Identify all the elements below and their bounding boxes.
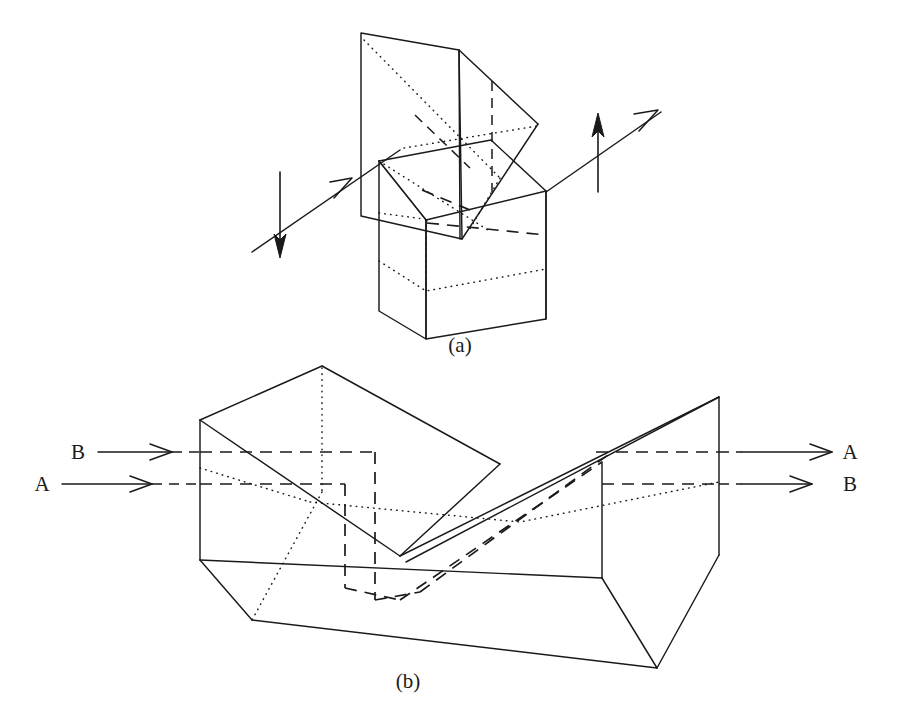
panel-a-group: (a) bbox=[252, 33, 661, 357]
roof-left-panel-top-edge bbox=[200, 366, 322, 420]
panel-a-label: (a) bbox=[448, 333, 471, 357]
panel-b-roof-body bbox=[200, 366, 719, 578]
bottom-slab-right-inner-bevel bbox=[602, 578, 657, 668]
inner-roof-rising-edge bbox=[400, 397, 719, 556]
ray-label-b-out: B bbox=[843, 472, 857, 496]
panel-b-outgoing-rays: A B bbox=[719, 440, 858, 496]
roof-right-panel-top-edge bbox=[322, 366, 500, 464]
output-ray-line bbox=[546, 112, 661, 192]
ray-label-a-in: A bbox=[34, 472, 50, 496]
hidden-left-interior-edge bbox=[200, 468, 310, 502]
upper-prism-hidden-diagonal bbox=[364, 40, 500, 178]
lower-body-left-face bbox=[379, 161, 426, 339]
lower-body-hidden-face-line bbox=[422, 190, 470, 210]
panel-a-upper-prism bbox=[361, 33, 538, 239]
bottom-slab-top-edge bbox=[200, 560, 602, 578]
hidden-left-diagonal bbox=[252, 492, 322, 620]
inner-roof-rising-edge-second bbox=[406, 397, 719, 562]
panel-b-bottom-slab bbox=[200, 555, 719, 668]
figure-canvas: (a) bbox=[0, 0, 906, 719]
upper-prism-roof-lower-edge bbox=[462, 124, 538, 239]
panel-b-hidden-dotted bbox=[200, 368, 719, 620]
ray-label-a-out: A bbox=[842, 440, 858, 464]
upper-prism-hidden-slant bbox=[415, 115, 470, 168]
prism-figure: (a) bbox=[0, 0, 906, 719]
panel-b-incoming-rays: B A bbox=[34, 440, 200, 496]
panel-a-output-ray bbox=[546, 110, 661, 192]
bottom-slab-right-bevel bbox=[657, 555, 719, 668]
internal-ray-bottom-turn-b bbox=[375, 592, 420, 600]
lower-body-hidden-back-bottom bbox=[379, 261, 546, 291]
bottom-slab-left-bevel bbox=[200, 560, 252, 620]
input-ray-arrowhead bbox=[330, 178, 352, 198]
panel-a-input-polarization bbox=[274, 172, 286, 258]
lower-body-front-face bbox=[426, 191, 546, 339]
panel-b-label: (b) bbox=[396, 669, 421, 693]
upper-prism-hidden-roof-edge bbox=[404, 126, 537, 148]
lower-body-hidden-left-diagonal bbox=[379, 213, 424, 219]
roof-left-panel-front-edge bbox=[200, 420, 400, 556]
upper-prism-ridge-line bbox=[459, 50, 460, 239]
internal-ray-bottom-turn-a bbox=[345, 588, 400, 600]
panel-b-group: B A A B (b) bbox=[34, 366, 858, 693]
hidden-back-horizon bbox=[310, 482, 719, 522]
ray-label-b-in: B bbox=[71, 440, 85, 464]
internal-ray-ascend-a bbox=[400, 462, 602, 600]
lower-body-interior-diagonal bbox=[379, 161, 427, 221]
lower-body-top-face bbox=[379, 140, 546, 220]
bottom-slab-front-edge bbox=[252, 620, 657, 668]
upper-prism-roof-upper-edge bbox=[459, 50, 538, 124]
upper-prism-front-face-edge bbox=[361, 33, 462, 239]
